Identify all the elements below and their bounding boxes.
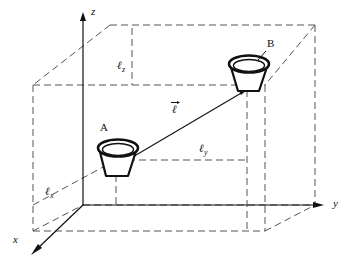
vector-arrow-icon [171,99,180,104]
coordinate-axes [31,12,324,255]
length-lz-base: ℓ [117,59,122,71]
z-axis-arrowhead [80,12,86,21]
x-axis-line [36,205,83,250]
length-ly-base: ℓ [199,142,204,154]
length-lx-sub: x [50,191,54,200]
length-ly-sub: y [204,148,208,157]
length-lz-label: ℓz [117,60,125,74]
vector-l-glyph-wrap: ℓ [172,104,177,115]
box-edge-bottom-left-recede [33,205,83,231]
horn-speaker-a [98,140,138,177]
box-wireframe [33,25,315,231]
length-lz-sub: z [122,65,126,74]
diagram-canvas: z y x A B ℓz ℓy ℓx ℓ [0,0,352,259]
vector-l-base: ℓ [172,103,177,115]
length-lx-label: ℓx [45,186,54,200]
y-axis-arrowhead [313,202,324,208]
x-axis-label: x [13,234,18,245]
horn-a-mouth-inner [103,144,134,156]
vector-l-label: ℓ [172,104,177,115]
length-ly-label: ℓy [199,143,208,157]
z-axis-label: z [91,6,95,17]
point-b-label: B [267,38,274,49]
length-lx-base: ℓ [45,185,50,197]
horn-b-mouth-inner [234,60,265,72]
vector-l-line [131,88,249,158]
point-a-label: A [100,122,108,133]
box-edge-top-right-recede [265,25,315,85]
box-edge-top-left-recede [33,25,110,85]
diagram-vector-graphics [0,0,352,259]
horn-speaker-b [229,56,269,92]
y-axis-label: y [333,198,338,209]
vector-l-shaft [131,92,243,158]
box-edge-bottom-right-recede [265,205,315,231]
